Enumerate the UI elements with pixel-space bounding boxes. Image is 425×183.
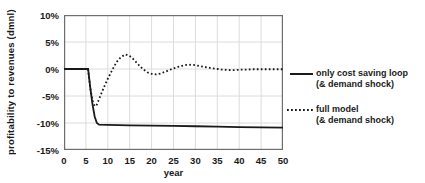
dotted-line-swatch: [287, 107, 313, 113]
y-tick-label: -15%: [0, 145, 59, 156]
x-axis-title: year: [64, 167, 283, 178]
solid-line-swatch: [287, 71, 313, 77]
y-axis-title: profitability to revenues (dmnl): [2, 6, 18, 158]
legend-label: full model (& demand shock): [316, 104, 394, 126]
y-tick-label: 5%: [0, 37, 59, 48]
y-tick-label: 0%: [0, 64, 59, 75]
legend-label-line1: full model: [316, 104, 394, 115]
legend-item-only-cost-saving-loop: only cost saving loop (& demand shock): [287, 68, 423, 90]
legend: only cost saving loop (& demand shock) f…: [287, 68, 423, 140]
plot-area: [64, 15, 283, 150]
legend-label-line2: (& demand shock): [316, 115, 394, 126]
legend-label-line2: (& demand shock): [316, 79, 408, 90]
chart-canvas: profitability to revenues (dmnl) 10%5%0%…: [0, 0, 425, 183]
y-tick-label: 10%: [0, 10, 59, 21]
legend-label: only cost saving loop (& demand shock): [316, 68, 408, 90]
legend-item-full-model: full model (& demand shock): [287, 104, 423, 126]
x-tick-label: 50: [268, 155, 298, 166]
y-tick-label: -10%: [0, 118, 59, 129]
legend-label-line1: only cost saving loop: [316, 68, 408, 79]
y-tick-label: -5%: [0, 91, 59, 102]
